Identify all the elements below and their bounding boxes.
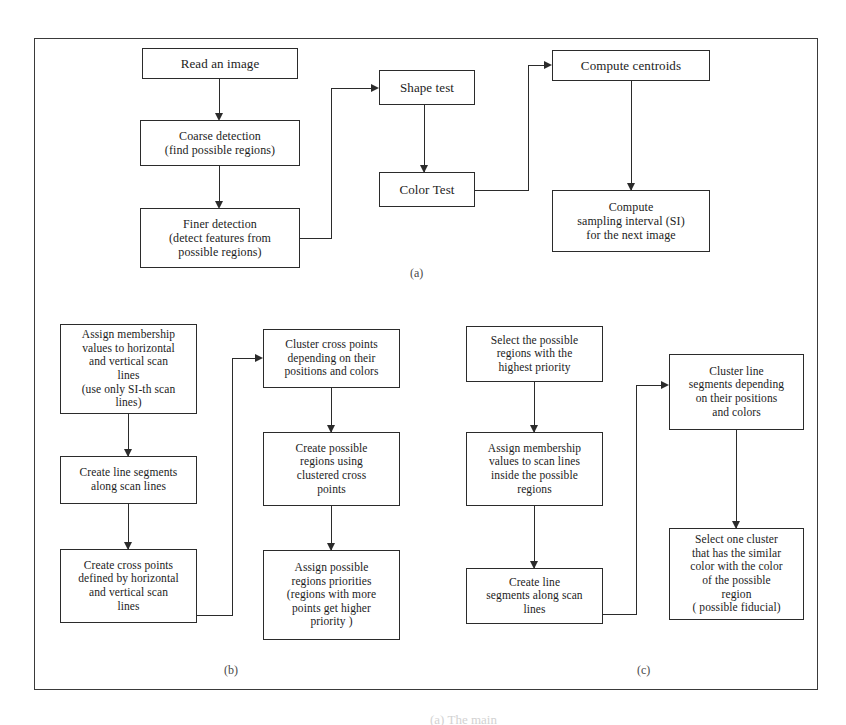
node-b-assign-priorities[interactable]: Assign possible regions priorities (regi… [263,550,400,640]
connector-c-cluster-to-select [736,430,737,528]
node-label: Compute sampling interval (SI) for the n… [556,200,706,242]
connector-finer-to-shape-seg2 [331,88,332,239]
node-label: Assign membership values to horizontal a… [64,328,193,409]
node-label: Create line segments along scan lines [64,466,193,493]
node-c-cluster-line-segments[interactable]: Cluster line segments depending on their… [669,354,804,430]
node-label: Create cross points defined by horizonta… [64,559,193,613]
node-b-create-cross-points[interactable]: Create cross points defined by horizonta… [60,549,197,623]
panel-label-b: (b) [224,663,238,678]
node-label: Select the possible regions with the hig… [470,334,599,375]
node-label: Cluster line segments depending on their… [673,365,800,419]
arrowhead-color-to-centroids [544,61,552,69]
connector-finer-to-shape-seg1 [300,238,331,239]
node-c-select-possible-regions[interactable]: Select the possible regions with the hig… [466,326,603,382]
node-label: Assign membership values to scan lines i… [470,442,599,496]
node-label: Assign possible regions priorities (regi… [267,561,396,629]
node-compute-centroids[interactable]: Compute centroids [552,50,710,81]
connector-c-segments-to-cluster-seg1 [603,614,636,615]
node-compute-sampling-interval[interactable]: Compute sampling interval (SI) for the n… [552,190,710,252]
connector-finer-to-shape-seg3 [331,88,374,89]
figure-bottom-caption: (a) The main [430,712,830,725]
node-label: Create line segments along scan lines [470,576,599,617]
node-c-create-line-segments[interactable]: Create line segments along scan lines [466,568,603,624]
node-label: Create possible regions using clustered … [267,442,396,496]
connector-color-to-centroids-seg1 [475,190,528,191]
node-c-assign-membership-inside[interactable]: Assign membership values to scan lines i… [466,432,603,506]
connector-color-to-centroids-seg2 [528,65,529,191]
connector-c-assign-to-segments [534,506,535,568]
node-label: Read an image [146,56,294,71]
flowchart-figure: Read an image Coarse detection (find pos… [0,0,846,725]
node-c-select-one-cluster[interactable]: Select one cluster that has the similar … [669,528,804,620]
node-shape-test[interactable]: Shape test [379,70,475,105]
node-coarse-detection[interactable]: Coarse detection (find possible regions) [140,120,300,166]
connector-c-segments-to-cluster-seg3 [636,385,664,386]
node-label: Coarse detection (find possible regions) [144,129,296,157]
arrowhead-b-cross-to-cluster [255,354,263,362]
node-finer-detection[interactable]: Finer detection (detect features from po… [140,208,300,268]
node-color-test[interactable]: Color Test [379,172,475,207]
arrowhead-finer-to-shape [371,84,379,92]
node-label: Shape test [383,80,471,95]
connector-b-cross-to-cluster-seg2 [232,358,233,616]
connector-c-segments-to-cluster-seg2 [636,385,637,615]
node-b-create-line-segments[interactable]: Create line segments along scan lines [60,456,197,504]
connector-shape-to-color [424,105,425,172]
node-label: Select one cluster that has the similar … [673,533,800,614]
panel-label-a: (a) [410,266,423,281]
node-b-create-possible-regions[interactable]: Create possible regions using clustered … [263,432,400,506]
node-label: Color Test [383,182,471,197]
connector-b-cross-to-cluster-seg1 [197,615,232,616]
connector-centroids-to-si [631,81,632,190]
node-label: Finer detection (detect features from po… [144,217,296,259]
panel-label-c: (c) [637,663,650,678]
node-b-cluster-cross-points[interactable]: Cluster cross points depending on their … [263,329,400,388]
node-label: Compute centroids [556,58,706,73]
node-label: Cluster cross points depending on their … [267,338,396,379]
node-read-an-image[interactable]: Read an image [142,48,298,79]
node-b-assign-membership[interactable]: Assign membership values to horizontal a… [60,324,197,414]
arrowhead-c-segments-to-cluster [661,381,669,389]
